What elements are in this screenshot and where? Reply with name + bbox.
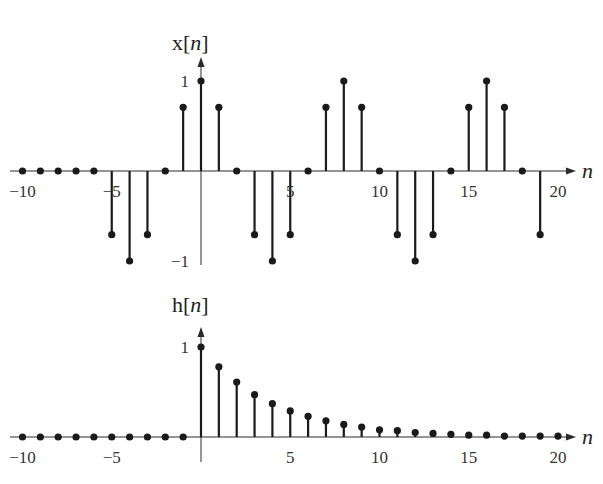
stem-marker bbox=[55, 167, 62, 174]
stem-marker bbox=[55, 433, 62, 440]
x-tick-label: 20 bbox=[550, 182, 567, 201]
y-tick-label: 1 bbox=[181, 72, 190, 91]
stem-marker bbox=[429, 231, 436, 238]
stem-marker bbox=[37, 167, 44, 174]
stem-marker bbox=[215, 104, 222, 111]
x-tick-label: 10 bbox=[371, 182, 388, 201]
stem-marker bbox=[233, 167, 240, 174]
stem-marker bbox=[72, 433, 79, 440]
stem-marker bbox=[180, 433, 187, 440]
stem-marker bbox=[340, 77, 347, 84]
stem-marker bbox=[501, 433, 508, 440]
stem-marker bbox=[144, 231, 151, 238]
stem-marker bbox=[519, 167, 526, 174]
x-tick-label: −10 bbox=[9, 448, 36, 467]
y-tick-label: 1 bbox=[181, 338, 190, 357]
stem-marker bbox=[465, 432, 472, 439]
stem-marker bbox=[447, 431, 454, 438]
stem-marker bbox=[376, 426, 383, 433]
y-tick-label: −1 bbox=[171, 252, 189, 271]
stem-marker bbox=[90, 433, 97, 440]
stem-marker bbox=[233, 379, 240, 386]
x-tick-label: −10 bbox=[9, 182, 36, 201]
x-n-title: x[n] bbox=[172, 30, 209, 55]
stem-marker bbox=[108, 433, 115, 440]
y-axis-arrow-icon bbox=[198, 327, 205, 337]
stem-marker bbox=[394, 427, 401, 434]
stem-marker bbox=[19, 433, 26, 440]
x-tick-label: 20 bbox=[550, 448, 567, 467]
stem-marker bbox=[162, 167, 169, 174]
x-tick-labels: −10−55101520 bbox=[9, 182, 566, 201]
stem-marker bbox=[305, 413, 312, 420]
x-tick-label: 15 bbox=[460, 182, 477, 201]
stem-marker bbox=[287, 231, 294, 238]
x-axis-arrow-icon bbox=[566, 434, 576, 441]
stem-marker bbox=[358, 424, 365, 431]
stem-marker bbox=[180, 104, 187, 111]
stem-marker bbox=[144, 433, 151, 440]
stem-marker bbox=[322, 104, 329, 111]
stem-marker bbox=[483, 77, 490, 84]
stem-marker bbox=[215, 363, 222, 370]
x-axis-label: n bbox=[582, 424, 593, 449]
h-n-stem-plot: h[n] n −10−55101520 1 bbox=[9, 292, 593, 467]
y-tick-labels: 1 bbox=[181, 338, 190, 357]
stem-marker bbox=[554, 433, 561, 440]
x-n-stem-plot: x[n] n −10−55101520 1−1 bbox=[9, 30, 593, 271]
x-tick-label: −5 bbox=[103, 448, 121, 467]
stem-marker bbox=[19, 167, 26, 174]
stem-marker bbox=[447, 167, 454, 174]
stem-marker bbox=[465, 104, 472, 111]
stem-marker bbox=[537, 231, 544, 238]
x-tick-label: 15 bbox=[460, 448, 477, 467]
stem-marker bbox=[126, 433, 133, 440]
stem-marker bbox=[412, 429, 419, 436]
stems bbox=[19, 343, 562, 440]
stem-marker bbox=[37, 433, 44, 440]
stem-marker bbox=[90, 167, 97, 174]
stem-marker bbox=[537, 433, 544, 440]
x-axis-arrow-icon bbox=[566, 168, 576, 175]
stem-marker bbox=[162, 433, 169, 440]
stem-marker bbox=[358, 104, 365, 111]
x-tick-label: 10 bbox=[371, 448, 388, 467]
stem-marker bbox=[519, 433, 526, 440]
stem-marker bbox=[269, 400, 276, 407]
x-tick-label: 5 bbox=[286, 182, 295, 201]
stem-marker bbox=[72, 167, 79, 174]
stem-marker bbox=[322, 417, 329, 424]
stem-marker bbox=[197, 343, 204, 350]
stem-marker bbox=[305, 167, 312, 174]
stem-marker bbox=[126, 257, 133, 264]
stem-marker bbox=[483, 432, 490, 439]
stem-marker bbox=[269, 257, 276, 264]
x-tick-labels: −10−55101520 bbox=[9, 448, 566, 467]
x-axis-label: n bbox=[582, 158, 593, 183]
stem-marker bbox=[394, 231, 401, 238]
stem-marker bbox=[412, 257, 419, 264]
stem-marker bbox=[108, 231, 115, 238]
stem-marker bbox=[376, 167, 383, 174]
stem-marker bbox=[340, 421, 347, 428]
y-axis-arrow-icon bbox=[198, 57, 205, 67]
stem-marker bbox=[501, 104, 508, 111]
x-tick-label: −5 bbox=[103, 182, 121, 201]
stem-marker bbox=[197, 77, 204, 84]
stem-marker bbox=[251, 231, 258, 238]
stem-marker bbox=[429, 430, 436, 437]
x-tick-label: 5 bbox=[286, 448, 295, 467]
stem-marker bbox=[251, 391, 258, 398]
stem-marker bbox=[287, 407, 294, 414]
stem-plots: x[n] n −10−55101520 1−1 h[n] n −10−55101… bbox=[0, 0, 603, 484]
h-n-title: h[n] bbox=[172, 292, 209, 317]
